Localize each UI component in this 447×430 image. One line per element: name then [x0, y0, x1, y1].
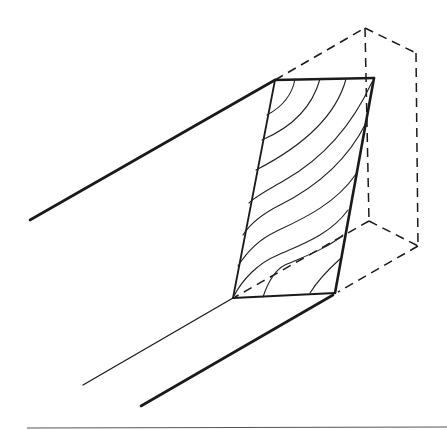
bottom-rule [27, 427, 447, 428]
dashed-box [235, 28, 418, 297]
board-edges [30, 80, 333, 406]
board-grain-diagram [0, 0, 447, 430]
